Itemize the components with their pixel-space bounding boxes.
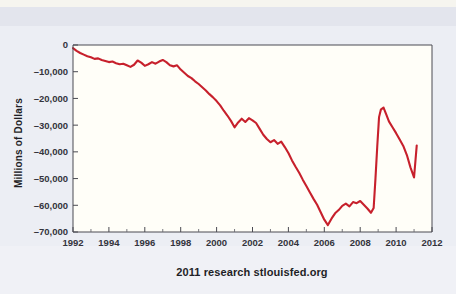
y-tick-label: –60,000 xyxy=(34,200,68,211)
chart-figure: 0–10,000–20,000–30,000–40,000–50,000–60,… xyxy=(0,20,456,282)
x-tick-label: 1998 xyxy=(170,237,191,248)
y-tick-label: –40,000 xyxy=(34,146,68,157)
x-tick-label: 2004 xyxy=(278,237,300,248)
y-axis-ticks: 0–10,000–20,000–30,000–40,000–50,000–60,… xyxy=(34,39,78,237)
x-tick-label: 1996 xyxy=(134,237,155,248)
x-tick-label: 2010 xyxy=(386,237,407,248)
x-tick-label: 2000 xyxy=(206,237,227,248)
chart-svg: 0–10,000–20,000–30,000–40,000–50,000–60,… xyxy=(0,20,456,282)
chart-caption: 2011 research stlouisfed.org xyxy=(176,266,327,278)
x-tick-label: 2006 xyxy=(314,237,335,248)
y-tick-label: –50,000 xyxy=(34,173,68,184)
y-tick-label: –30,000 xyxy=(34,120,68,131)
x-tick-label: 1994 xyxy=(98,237,120,248)
y-axis-title: Millions of Dollars xyxy=(13,98,24,188)
figure-page: 0–10,000–20,000–30,000–40,000–50,000–60,… xyxy=(0,0,456,294)
x-tick-label: 2012 xyxy=(421,237,442,248)
y-tick-label: 0 xyxy=(63,39,68,50)
y-tick-label: –70,000 xyxy=(34,226,68,237)
x-tick-label: 1992 xyxy=(62,237,83,248)
x-tick-label: 2008 xyxy=(350,237,371,248)
y-tick-label: –10,000 xyxy=(34,66,68,77)
y-tick-label: –20,000 xyxy=(34,93,68,104)
x-tick-label: 2002 xyxy=(242,237,263,248)
